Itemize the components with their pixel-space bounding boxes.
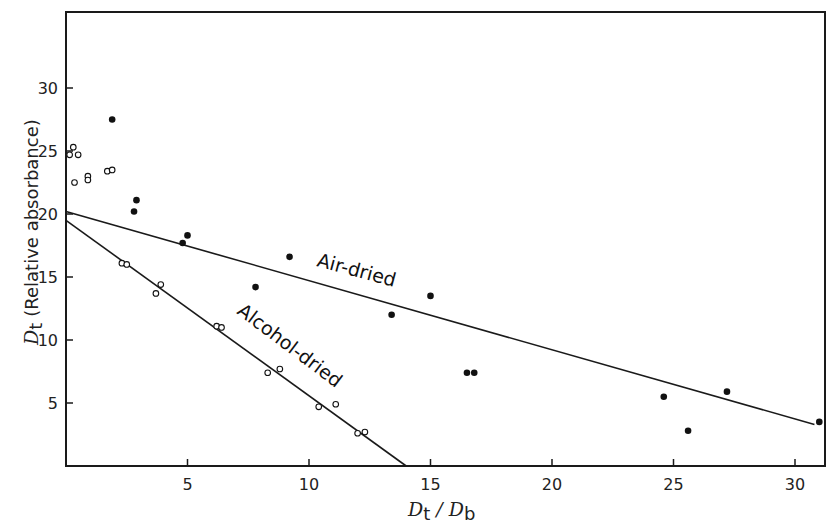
- alcohol-dried-point: [124, 262, 130, 268]
- alcohol-dried-point: [109, 167, 115, 173]
- air-dried-point: [427, 293, 434, 300]
- x-tick-label: 5: [182, 475, 192, 494]
- alcohol-dried-point: [153, 291, 159, 297]
- alcohol-dried-point: [333, 401, 339, 407]
- air-dried-point: [660, 393, 667, 400]
- air-dried-point: [685, 427, 692, 434]
- x-tick-label: 25: [663, 475, 683, 494]
- alcohol-dried-point: [316, 404, 322, 410]
- air-dried-point: [133, 197, 140, 204]
- data-points: [67, 116, 823, 436]
- air-dried-point: [724, 388, 731, 395]
- alcohol-dried-point: [355, 430, 361, 436]
- air-dried-point: [131, 208, 138, 215]
- air-dried-label: Air-dried: [315, 249, 399, 291]
- alcohol-dried-point: [72, 180, 78, 186]
- air-dried-fit-line: [66, 211, 814, 424]
- alcohol-dried-point: [362, 429, 368, 435]
- alcohol-dried-point: [277, 366, 283, 372]
- x-tick-label: 10: [299, 475, 319, 494]
- svg-text:Dt / Db: Dt / Db: [407, 498, 475, 524]
- air-dried-point: [286, 254, 293, 261]
- alcohol-dried-point: [265, 370, 271, 376]
- fit-lines: [66, 211, 814, 466]
- y-tick-label: 30: [38, 79, 58, 98]
- plot-border: [66, 12, 825, 466]
- alcohol-dried-point: [70, 144, 76, 150]
- plot-frame: [66, 12, 825, 466]
- alcohol-dried-point: [85, 177, 91, 183]
- x-tick-label: 30: [785, 475, 805, 494]
- y-tick-label: 5: [48, 394, 58, 413]
- x-axis-ticks: 51015202530: [182, 459, 805, 494]
- air-dried-point: [471, 369, 478, 376]
- alcohol-dried-label: Alcohol-dried: [234, 299, 347, 392]
- air-dried-point: [109, 116, 116, 123]
- x-axis-title: Dt / Db: [407, 498, 475, 524]
- y-axis-ticks: 51015202530: [38, 79, 73, 413]
- x-tick-label: 15: [420, 475, 440, 494]
- alcohol-dried-point: [158, 282, 164, 288]
- air-dried-point: [252, 284, 259, 291]
- air-dried-point: [464, 369, 471, 376]
- alcohol-dried-point: [67, 152, 73, 158]
- air-dried-point: [179, 240, 186, 247]
- air-dried-point: [184, 232, 191, 239]
- alcohol-dried-point: [75, 152, 81, 158]
- scatter-chart: 51015202530 51015202530 Air-dried Alcoho…: [0, 0, 836, 525]
- air-dried-point: [816, 419, 823, 426]
- x-tick-label: 20: [542, 475, 562, 494]
- alcohol-dried-point: [219, 325, 225, 331]
- air-dried-point: [388, 312, 395, 319]
